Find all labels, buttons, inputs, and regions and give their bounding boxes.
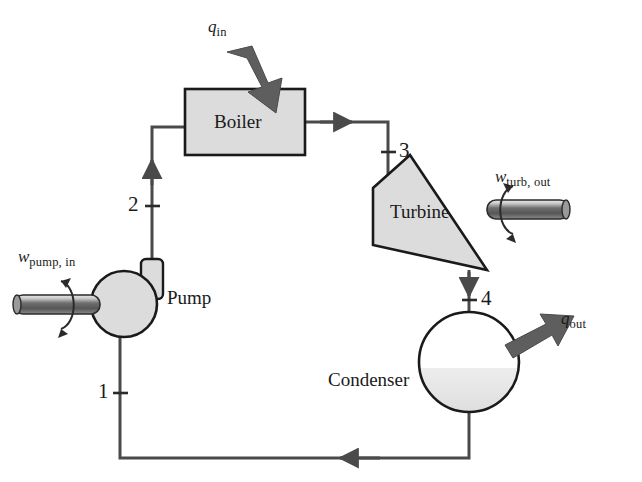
w-turb-out-symbol: w	[495, 167, 506, 186]
pipe-condenser-to-pump	[120, 306, 469, 458]
state-point-3-label: 3	[399, 140, 410, 161]
q-in-symbol: q	[208, 17, 217, 36]
turbine-rotation-arrowhead-bottom	[506, 234, 516, 243]
pipe-boiler-to-turbine	[305, 122, 388, 178]
condenser-body	[419, 312, 519, 418]
w-pump-in-label: wpump, in	[18, 248, 75, 268]
q-out-subscript: out	[570, 317, 587, 331]
state-point-1-label: 1	[98, 381, 109, 402]
q-out-label: qout	[561, 310, 586, 330]
condenser-liquid-level	[419, 368, 519, 418]
pipe-pump-to-boiler	[152, 127, 185, 264]
q-out-symbol: q	[561, 309, 570, 328]
rankine-cycle-diagram: Boiler Turbine Condenser Pump 1 2 3 4 qi…	[0, 0, 642, 482]
pump-shaft	[14, 295, 100, 314]
w-turb-out-subscript: turb, out	[506, 175, 550, 189]
turbine-shaft-end-cap	[562, 200, 570, 219]
q-in-subscript: in	[217, 25, 227, 39]
diagram-canvas	[0, 0, 642, 482]
condenser-label: Condenser	[328, 370, 409, 389]
w-pump-in-symbol: w	[18, 247, 29, 266]
pump-label: Pump	[167, 288, 211, 307]
state-point-2-label: 2	[128, 194, 139, 215]
pump-shaft-assembly	[13, 278, 100, 338]
q-in-label: qin	[208, 18, 227, 38]
pump-impeller-housing	[91, 271, 157, 337]
state-point-4-label: 4	[481, 288, 492, 309]
pump-rotation-arrowhead-bottom	[58, 329, 68, 338]
turbine-label: Turbine	[390, 202, 449, 221]
w-turb-out-label: wturb, out	[495, 168, 551, 188]
turbine-shaft-assembly	[487, 183, 570, 243]
pump-shaft-end-cap	[13, 295, 21, 314]
boiler-label: Boiler	[214, 112, 262, 131]
pump-body	[91, 259, 163, 337]
w-pump-in-subscript: pump, in	[29, 255, 75, 269]
